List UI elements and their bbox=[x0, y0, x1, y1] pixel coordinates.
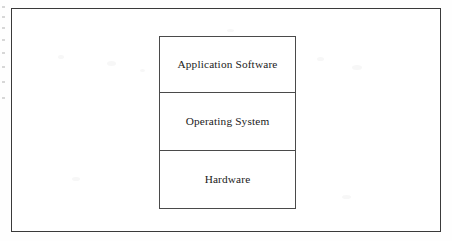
paper-speck bbox=[140, 69, 145, 72]
layer-operating-system: Operating System bbox=[160, 93, 295, 151]
layer-label-application-software: Application Software bbox=[178, 59, 278, 70]
layer-stack-diagram: Application Software Operating System Ha… bbox=[159, 36, 296, 209]
paper-speck bbox=[317, 57, 324, 61]
figure-outer-frame: Application Software Operating System Ha… bbox=[11, 8, 441, 232]
paper-speck bbox=[58, 55, 64, 59]
paper-speck bbox=[352, 65, 362, 70]
layer-hardware: Hardware bbox=[160, 151, 295, 208]
paper-speck bbox=[342, 195, 351, 199]
paper-speck bbox=[227, 29, 234, 32]
layer-label-operating-system: Operating System bbox=[186, 116, 270, 127]
paper-speck bbox=[107, 61, 116, 66]
scan-edge-artifacts bbox=[0, 0, 9, 241]
paper-speck bbox=[72, 177, 80, 181]
layer-label-hardware: Hardware bbox=[205, 174, 251, 185]
layer-application-software: Application Software bbox=[160, 37, 295, 93]
